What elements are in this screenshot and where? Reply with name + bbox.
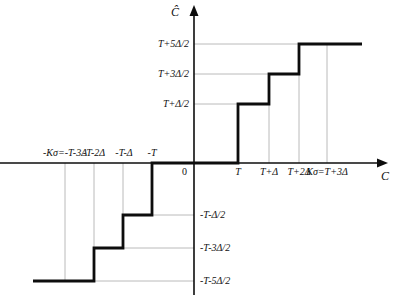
quantizer-characteristic-figure: T+5Δ/2 T+3Δ/2 T+Δ/2 -T-Δ/2 -T-3Δ/2 -T-5Δ…	[0, 0, 396, 303]
origin-label: 0	[182, 167, 187, 177]
x-axis-arrowhead	[377, 159, 388, 168]
y-tick-label-t-plus-3d-2: T+3Δ/2	[133, 69, 189, 79]
x-tick-label-ksigma: Kσ=T+3Δ	[291, 167, 363, 177]
y-axis-name-label: Ĉ	[171, 6, 179, 18]
y-tick-label-t-plus-d-2: T+Δ/2	[133, 99, 189, 109]
y-tick-label-minus-t-minus-d-2: -T-Δ/2	[200, 210, 225, 220]
x-tick-label-t: T	[228, 167, 248, 177]
y-tick-label-t-plus-5d-2: T+5Δ/2	[133, 39, 189, 49]
x-tick-label-minus-t: -T	[139, 148, 165, 158]
x-axis-name-label: C	[381, 170, 389, 182]
y-tick-label-minus-t-minus-5d-2: -T-5Δ/2	[200, 276, 230, 286]
y-tick-label-minus-t-minus-3d-2: -T-3Δ/2	[200, 243, 230, 253]
y-axis-arrowhead	[190, 5, 199, 16]
